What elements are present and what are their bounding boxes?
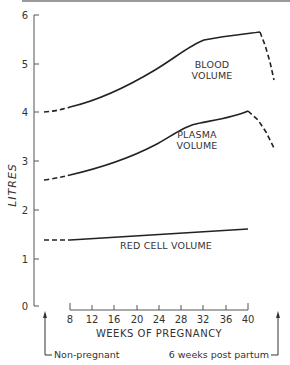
x-tick-8: 8 xyxy=(67,314,73,325)
x-tick-28: 28 xyxy=(175,314,188,325)
y-axis-title: LITRES xyxy=(6,163,19,207)
x-axis-title: WEEKS OF PREGNANCY xyxy=(96,328,223,339)
series-red-cell-volume xyxy=(44,229,248,240)
non-pregnant-arrow xyxy=(45,314,52,355)
red-cell-volume-label: RED CELL VOLUME xyxy=(120,240,212,251)
series-blood-volume xyxy=(44,32,274,112)
y-tick-1: 1 xyxy=(22,254,28,265)
x-tick-16: 16 xyxy=(108,314,121,325)
y-tick-4: 4 xyxy=(22,107,28,118)
plasma-volume-label-line2: VOLUME xyxy=(177,140,218,151)
x-tick-40: 40 xyxy=(242,314,255,325)
x-tick-36: 36 xyxy=(220,314,233,325)
up-arrow-icon xyxy=(276,311,280,318)
blood-volume-label-line2: VOLUME xyxy=(192,70,233,81)
y-tick-2: 2 xyxy=(22,205,28,216)
x-axis xyxy=(70,303,248,310)
blood-volume-label-line1: BLOOD xyxy=(195,59,230,70)
x-tick-32: 32 xyxy=(197,314,210,325)
x-tick-labels: 8 12 16 20 24 28 32 36 40 xyxy=(67,314,255,325)
series-plasma-volume xyxy=(44,111,275,180)
blood-volume-chart: 6 5 4 3 2 1 0 LITRES 8 12 16 20 24 28 32… xyxy=(0,0,290,365)
non-pregnant-annotation: Non-pregnant xyxy=(54,349,120,360)
x-tick-12: 12 xyxy=(86,314,99,325)
plasma-volume-label-line1: PLASMA xyxy=(177,129,217,140)
x-tick-24: 24 xyxy=(153,314,166,325)
y-axis xyxy=(34,15,39,306)
x-tick-20: 20 xyxy=(131,314,144,325)
y-tick-5: 5 xyxy=(22,59,28,70)
post-partum-arrow xyxy=(271,314,278,355)
up-arrow-icon xyxy=(43,311,47,318)
y-tick-6: 6 xyxy=(22,10,28,21)
y-tick-0: 0 xyxy=(22,301,28,312)
y-tick-3: 3 xyxy=(22,156,28,167)
post-partum-annotation: 6 weeks post partum xyxy=(169,349,269,360)
y-tick-labels: 6 5 4 3 2 1 0 xyxy=(22,10,28,312)
